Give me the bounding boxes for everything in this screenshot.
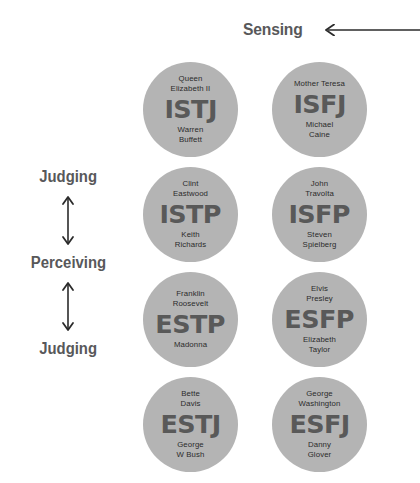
top-person-name: Elvis Presley [306,284,333,304]
type-circle-istp[interactable]: Clint EastwoodISTPKeith Richards [143,167,238,262]
bottom-person-name: George W Bush [177,440,205,460]
bottom-person-name: Steven Spielberg [303,230,337,250]
type-code: ISFP [289,202,351,227]
type-code: ESFP [285,307,354,332]
top-person-name: Bette Davis [181,389,201,409]
type-circle-isfp[interactable]: John TravoltaISFPSteven Spielberg [272,167,367,262]
type-circle-esfj[interactable]: George WashingtonESFJDanny Glover [272,377,367,472]
bottom-person-name: Warren Buffett [178,125,204,145]
top-person-name: Clint Eastwood [173,179,208,199]
type-code: ESFJ [289,412,349,437]
type-code: ISFJ [293,92,345,117]
bottom-person-name: Madonna [174,340,207,350]
type-circle-istj[interactable]: Queen Elizabeth IIISTJWarren Buffett [143,62,238,157]
bottom-person-name: Danny Glover [308,440,332,460]
type-circle-isfj[interactable]: Mother TeresaISFJMichael Caine [272,62,367,157]
top-person-name: Queen Elizabeth II [171,74,211,94]
top-person-name: Franklin Roosevelt [173,289,209,309]
type-code: ESTP [156,312,225,337]
bottom-person-name: Keith Richards [175,230,207,250]
top-person-name: John Travolta [305,179,334,199]
bottom-person-name: Michael Caine [306,120,334,140]
type-code: ISTP [160,202,222,227]
type-code: ESTJ [160,412,220,437]
type-circle-estp[interactable]: Franklin RooseveltESTPMadonna [143,272,238,367]
bottom-person-name: Elizabeth Taylor [303,335,336,355]
top-person-name: George Washington [299,389,341,409]
type-code: ISTJ [164,97,216,122]
type-circle-esfp[interactable]: Elvis PresleyESFPElizabeth Taylor [272,272,367,367]
type-circle-estj[interactable]: Bette DavisESTJGeorge W Bush [143,377,238,472]
top-person-name: Mother Teresa [294,79,345,89]
